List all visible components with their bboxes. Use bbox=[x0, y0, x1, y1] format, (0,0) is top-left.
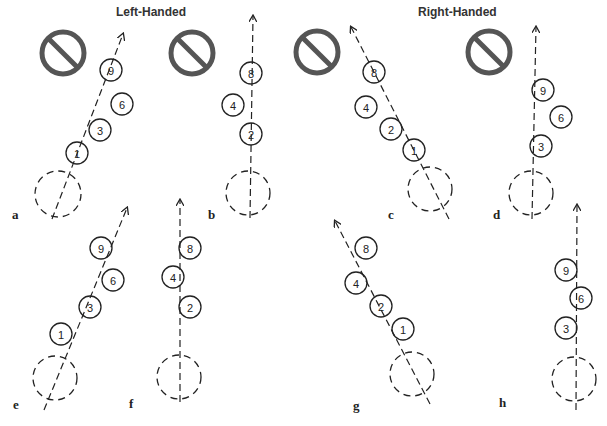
panel-label: a bbox=[12, 207, 19, 222]
panel-label: b bbox=[208, 207, 215, 222]
ball-position bbox=[157, 355, 201, 399]
pin-3: 3 bbox=[555, 317, 577, 339]
panel-label: g bbox=[353, 398, 360, 413]
pin-2: 2 bbox=[370, 295, 392, 317]
pin-6: 6 bbox=[111, 93, 133, 115]
pin-number: 8 bbox=[363, 243, 369, 255]
pin-8: 8 bbox=[179, 237, 201, 259]
pin-1: 1 bbox=[392, 318, 414, 340]
panel-b: 842b bbox=[171, 16, 270, 222]
ball-path-arrow bbox=[335, 221, 430, 404]
pin-4: 4 bbox=[162, 266, 184, 288]
pin-number: 3 bbox=[97, 125, 103, 137]
heading-right-handed: Right-Handed bbox=[418, 5, 497, 19]
pin-number: 3 bbox=[563, 323, 569, 335]
panel-label: e bbox=[13, 397, 19, 412]
pin-2: 2 bbox=[380, 118, 402, 140]
pin-1: 1 bbox=[50, 323, 72, 345]
pin-2: 2 bbox=[179, 296, 201, 318]
panel-label: c bbox=[388, 207, 394, 222]
pin-number: 4 bbox=[170, 272, 176, 284]
ball-position bbox=[552, 357, 596, 401]
pin-3: 3 bbox=[89, 119, 111, 141]
ball-position bbox=[408, 167, 452, 211]
panel-a: 9631a bbox=[12, 32, 133, 222]
pin-number: 2 bbox=[187, 302, 193, 314]
ball-path-arrow bbox=[576, 205, 577, 410]
pin-number: 6 bbox=[119, 99, 125, 111]
pin-9: 9 bbox=[100, 59, 122, 81]
pin-number: 1 bbox=[400, 324, 406, 336]
ball-position bbox=[226, 171, 270, 215]
pin-number: 4 bbox=[353, 278, 359, 290]
ball-position bbox=[390, 352, 434, 396]
pin-6: 6 bbox=[102, 269, 124, 291]
panel-e: 9631e bbox=[13, 208, 127, 412]
panels-group: 9631a842b8421c963d9631e842f8421g963h bbox=[12, 16, 596, 413]
pin-number: 1 bbox=[58, 329, 64, 341]
pin-4: 4 bbox=[355, 96, 377, 118]
pin-number: 8 bbox=[248, 68, 254, 80]
pin-number: 2 bbox=[378, 301, 384, 313]
pin-6: 6 bbox=[550, 106, 572, 128]
ball-position bbox=[33, 356, 77, 400]
pin-6: 6 bbox=[570, 287, 592, 309]
ball-position bbox=[509, 171, 553, 215]
panel-g: 8421g bbox=[335, 221, 434, 413]
pin-number: 4 bbox=[230, 100, 236, 112]
pin-number: 9 bbox=[563, 265, 569, 277]
ball-path-arrow bbox=[250, 16, 253, 218]
panel-c: 8421c bbox=[296, 27, 452, 222]
panel-label: f bbox=[129, 396, 134, 411]
ball-path-arrow bbox=[52, 34, 123, 219]
pin-3: 3 bbox=[79, 296, 101, 318]
heading-left-handed: Left-Handed bbox=[116, 5, 186, 19]
ball-position bbox=[35, 171, 81, 217]
panel-h: 963h bbox=[499, 205, 596, 410]
panel-f: 842f bbox=[129, 200, 201, 411]
prohibited-icon bbox=[468, 31, 510, 73]
bowling-alignment-diagram: Left-Handed Right-Handed 9631a842b8421c9… bbox=[0, 0, 607, 426]
pin-number: 4 bbox=[363, 102, 369, 114]
panel-d: 963d bbox=[468, 27, 572, 222]
ball-path-arrow bbox=[532, 27, 536, 219]
pin-number: 8 bbox=[187, 243, 193, 255]
pin-number: 9 bbox=[540, 85, 546, 97]
panel-label: d bbox=[493, 207, 501, 222]
prohibited-icon bbox=[42, 32, 84, 74]
pin-9: 9 bbox=[555, 259, 577, 281]
pin-4: 4 bbox=[222, 94, 244, 116]
pin-8: 8 bbox=[240, 62, 262, 84]
pin-number: 3 bbox=[538, 141, 544, 153]
prohibited-icon bbox=[296, 31, 338, 73]
pin-number: 6 bbox=[558, 112, 564, 124]
pin-number: 2 bbox=[388, 124, 394, 136]
pin-number: 6 bbox=[110, 275, 116, 287]
panel-label: h bbox=[499, 395, 507, 410]
prohibited-icon bbox=[171, 32, 213, 74]
pin-9: 9 bbox=[90, 237, 112, 259]
pin-number: 9 bbox=[98, 243, 104, 255]
pin-8: 8 bbox=[355, 237, 377, 259]
pin-number: 6 bbox=[578, 293, 584, 305]
